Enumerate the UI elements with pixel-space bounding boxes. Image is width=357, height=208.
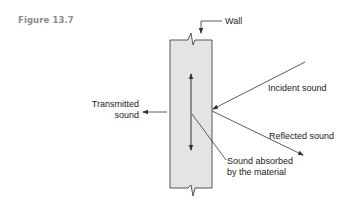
absorbed-sound-label-line1: Sound absorbed xyxy=(227,156,293,166)
sound-wall-diagram xyxy=(0,0,357,208)
wall-pointer-arrow xyxy=(201,21,222,33)
incident-sound-label: Incident sound xyxy=(268,83,327,93)
transmitted-sound-label-line2: sound xyxy=(85,110,139,120)
reflected-sound-label: Reflected sound xyxy=(269,131,334,141)
absorbed-sound-label-line2: by the material xyxy=(227,167,286,177)
wall-label: Wall xyxy=(225,16,242,26)
transmitted-sound-label-line1: Transmitted xyxy=(85,99,139,109)
